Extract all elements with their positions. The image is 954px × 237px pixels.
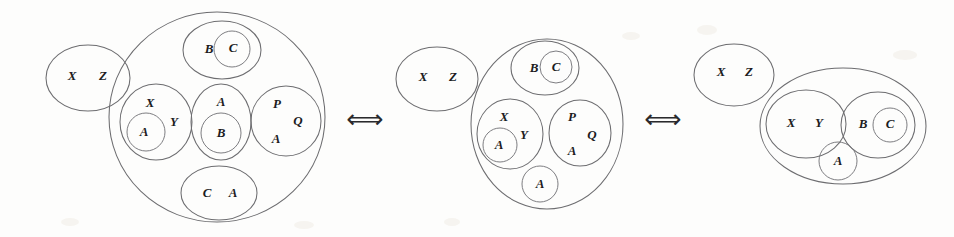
label-a-bottom: A bbox=[833, 153, 843, 168]
label-a-bottom: A bbox=[228, 185, 238, 200]
label-b-top: B bbox=[204, 41, 214, 56]
outer-ellipse-xz bbox=[46, 45, 130, 111]
label-b-top: B bbox=[529, 60, 539, 75]
ellipse-bc bbox=[183, 21, 261, 79]
figure-container: XZBCXYAABPQACA XZBCXYAPQAA XZXYBCA ⟺⟺ bbox=[0, 0, 954, 237]
label-p: P bbox=[273, 96, 282, 111]
label-x-xy: X bbox=[786, 115, 796, 130]
label-x-outer: X bbox=[418, 69, 428, 84]
diagram-middle: XZBCXYAPQAA bbox=[396, 39, 623, 209]
diagram-canvas: XZBCXYAABPQACA XZBCXYAPQAA XZXYBCA ⟺⟺ bbox=[0, 0, 954, 237]
label-x-mid: X bbox=[499, 109, 509, 124]
outer-ellipse-xz bbox=[694, 44, 774, 106]
label-c-top: C bbox=[552, 59, 561, 74]
equivalence-arrow-right: ⟺ bbox=[644, 104, 681, 134]
equivalence-connectors: ⟺⟺ bbox=[346, 104, 681, 134]
label-z-outer: Z bbox=[98, 68, 107, 83]
label-z-outer: Z bbox=[448, 69, 457, 84]
outer-ellipse-xz bbox=[396, 47, 478, 111]
circle-pqa bbox=[549, 100, 611, 166]
label-c-bottom: C bbox=[203, 185, 212, 200]
label-x-outer: X bbox=[67, 68, 77, 83]
ellipse-ca bbox=[181, 166, 257, 220]
label-b-in-ab: B bbox=[216, 125, 226, 140]
label-b-bc: B bbox=[858, 116, 868, 131]
label-a-in-xy: A bbox=[139, 124, 149, 139]
big-ellipse bbox=[471, 39, 623, 209]
diagram-right: XZXYBCA bbox=[694, 44, 926, 184]
label-q: Q bbox=[293, 113, 303, 128]
ellipse-xy bbox=[766, 90, 846, 158]
label-a-pqa: A bbox=[271, 131, 281, 146]
label-a-top-ab: A bbox=[216, 94, 226, 109]
label-a-in-xy: A bbox=[494, 137, 504, 152]
label-y-mid: Y bbox=[170, 114, 179, 129]
label-a-bottom: A bbox=[535, 176, 545, 191]
diagram-left: XZBCXYAABPQACA bbox=[46, 12, 325, 222]
equivalence-arrow-left: ⟺ bbox=[346, 104, 383, 134]
label-p: P bbox=[568, 109, 577, 124]
label-c-bc: C bbox=[886, 116, 895, 131]
label-y-xy: Y bbox=[815, 115, 824, 130]
ellipse-bc bbox=[511, 41, 579, 95]
big-ellipse bbox=[760, 68, 926, 184]
label-c-top: C bbox=[229, 40, 238, 55]
label-y-mid: Y bbox=[520, 127, 529, 142]
label-x-outer: X bbox=[716, 64, 726, 79]
label-z-outer: Z bbox=[744, 64, 753, 79]
label-q: Q bbox=[587, 127, 597, 142]
label-a-pqa: A bbox=[567, 143, 577, 158]
circle-pqa bbox=[251, 86, 321, 156]
label-x-mid: X bbox=[145, 95, 155, 110]
